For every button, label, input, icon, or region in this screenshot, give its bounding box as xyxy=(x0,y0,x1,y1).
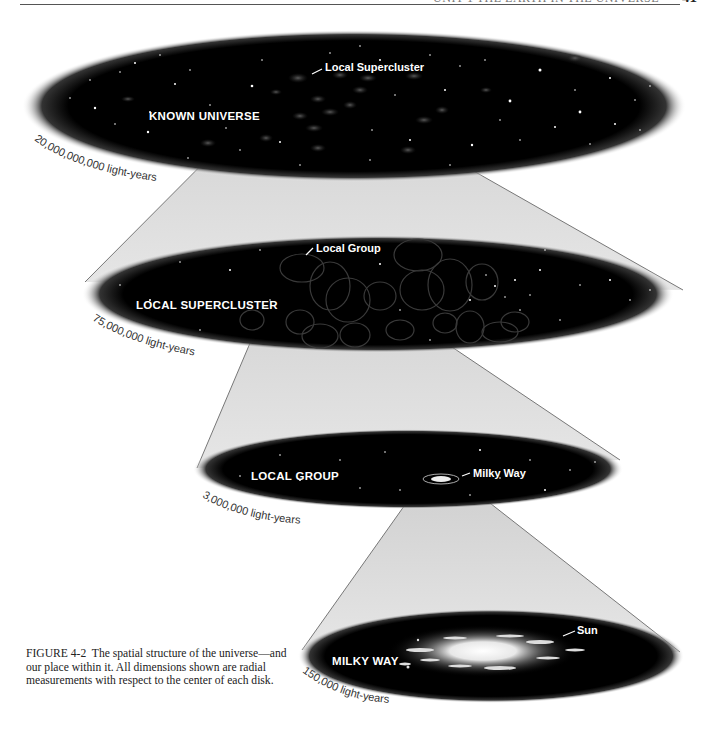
callout-milky-way: Milky Way xyxy=(473,467,527,479)
figure-caption: FIGURE 4-2 The spatial structure of the … xyxy=(26,647,304,688)
disk-known-universe: KNOWN UNIVERSE Local Supercluster xyxy=(22,30,686,182)
disk-local-supercluster: LOCAL SUPERCLUSTER Local Group xyxy=(82,235,674,353)
disk-local-group: LOCAL GROUP Milky Way xyxy=(193,429,623,509)
callout-sun: Sun xyxy=(577,624,598,636)
callout-local-group: Local Group xyxy=(316,242,381,254)
disk-label-local-supercluster: LOCAL SUPERCLUSTER xyxy=(136,299,278,311)
disk-label-local-group: LOCAL GROUP xyxy=(251,470,339,482)
textbook-page: UNIT 1 THE EARTH IN THE UNIVERSE 41 xyxy=(0,0,711,735)
universe-structure-figure: KNOWN UNIVERSE Local Supercluster xyxy=(0,0,711,735)
figure-number: FIGURE 4-2 xyxy=(26,647,86,660)
disk-label-milky-way: MILKY WAY xyxy=(332,655,399,667)
callout-local-supercluster: Local Supercluster xyxy=(325,61,425,73)
disk-label-known-universe: KNOWN UNIVERSE xyxy=(149,110,260,122)
